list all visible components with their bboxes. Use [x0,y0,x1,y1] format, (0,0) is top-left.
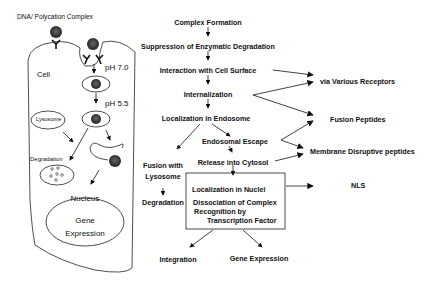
box-recognition: Recognition by [194,208,246,215]
degradation-label-left: Degradation [30,156,63,162]
complex-invagination-icon [87,38,99,50]
step-integration: Integration [159,256,196,263]
step-release-cytosol: Release into Cytosol [198,159,269,166]
mechanism-membrane-disruptive: Membrane Disruptive peptides [310,148,415,155]
gene-label: Gene [75,217,95,225]
step-complex-formation: Complex Formation [174,19,242,26]
mechanism-receptors: via Various Receptors [320,78,395,85]
released-complex-icon [109,155,121,167]
step-fusion-lysosome: Lysosome [145,173,180,180]
nucleus-label: Nucleus [71,195,100,203]
complex-title: DNA/ Polycation Complex [17,14,93,21]
ph-55-label: pH 5.5 [105,100,129,108]
lysosome-label: Lysosome [36,117,61,123]
cell-label: Cell [37,71,50,79]
mechanism-fusion-peptides: Fusion Peptides [330,116,386,123]
ph-70-label: pH 7.0 [105,64,129,72]
step-fusion-with: Fusion with [143,162,183,169]
step-suppression: Suppression of Enzymatic Degradation [141,43,275,50]
step-interaction: Interaction with Cell Surface [160,67,257,74]
step-endosomal-escape: Endosomal Escape [202,138,268,145]
complex-surface-icon [50,26,62,38]
box-dissociation: Dissociation of Complex [193,199,277,206]
step-degradation: Degradation [142,199,184,206]
box-localization-nuclei: Localization in Nuclei [192,186,265,193]
box-transcription-factor: Transcription Factor [207,217,277,224]
expression-label: Expression [65,230,105,238]
step-localization-endosome: Localization in Endosome [162,115,251,122]
step-gene-expression: Gene Expression [230,255,289,262]
mechanism-nls: NLS [351,182,365,189]
step-internalization: Internalization [184,91,233,98]
